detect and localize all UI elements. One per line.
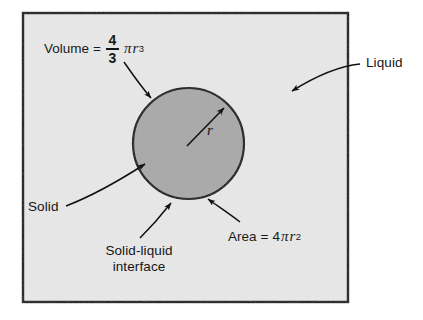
solid-label: Solid	[28, 199, 59, 215]
area-radius-variable: r	[288, 228, 295, 245]
area-formula-prefix: Area	[228, 229, 257, 244]
liquid-label: Liquid	[366, 55, 403, 71]
area-formula: Area = 4 π r 2	[228, 228, 301, 245]
volume-pi-symbol: π	[121, 40, 132, 57]
area-coefficient: 4	[269, 229, 280, 244]
volume-formula-equals: =	[89, 41, 102, 56]
figure-canvas: Volume = 4 3 π r 3 Area = 4 π r 2 r Liqu…	[0, 0, 423, 320]
volume-formula: Volume = 4 3 π r 3	[44, 33, 144, 65]
volume-formula-prefix: Volume	[44, 41, 89, 56]
radius-label: r	[206, 122, 213, 140]
interface-label: Solid-liquid interface	[84, 243, 194, 275]
volume-radius-variable: r	[131, 40, 138, 57]
area-formula-equals: =	[257, 229, 270, 244]
volume-denominator: 3	[107, 50, 119, 65]
area-pi-symbol: π	[280, 228, 289, 245]
volume-numerator: 4	[107, 33, 119, 48]
interface-label-line2: interface	[84, 259, 194, 275]
interface-label-line1: Solid-liquid	[84, 243, 194, 259]
volume-fraction: 4 3	[106, 33, 119, 65]
